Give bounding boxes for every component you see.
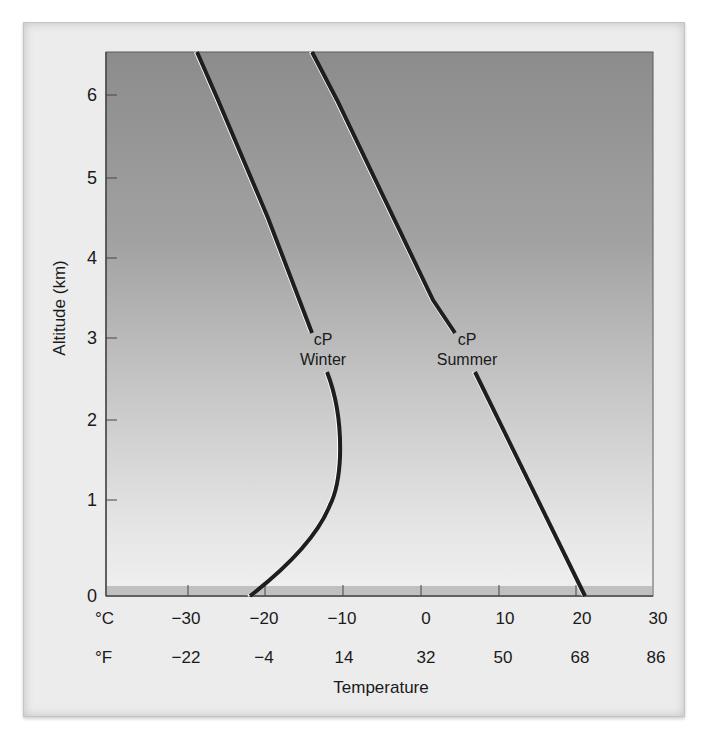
y-tick-label: 1 xyxy=(87,491,97,509)
label-cp-summer-line2: Summer xyxy=(437,350,497,370)
x-tick-fahrenheit: 32 xyxy=(417,649,436,666)
ground-band xyxy=(107,586,652,596)
plot-area xyxy=(106,52,653,596)
x-tick-fahrenheit: 14 xyxy=(335,649,354,666)
x-tick-celsius: 30 xyxy=(649,610,668,627)
label-cp-winter-line1: cP xyxy=(300,330,346,350)
chart-plot xyxy=(0,0,706,748)
x-tick-celsius: −10 xyxy=(328,610,357,627)
label-cp-summer: cP Summer xyxy=(437,330,497,370)
y-tick-label: 4 xyxy=(87,249,97,267)
y-tick-label: 6 xyxy=(87,86,97,104)
y-tick-label: 0 xyxy=(87,587,97,605)
x-tick-fahrenheit: −22 xyxy=(172,649,201,666)
x-axis-title: Temperature xyxy=(333,678,428,698)
x-tick-fahrenheit: −4 xyxy=(254,649,273,666)
y-tick-label: 2 xyxy=(87,411,97,429)
x-tick-celsius: −30 xyxy=(172,610,201,627)
x-tick-celsius: 20 xyxy=(573,610,592,627)
y-axis-title: Altitude (km) xyxy=(50,260,70,355)
x-tick-fahrenheit: 50 xyxy=(494,649,513,666)
y-tick-label: 3 xyxy=(87,329,97,347)
x-tick-celsius: 0 xyxy=(421,610,430,627)
y-tick-label: 5 xyxy=(87,169,97,187)
label-cp-winter-line2: Winter xyxy=(300,350,346,370)
x-tick-celsius: 10 xyxy=(496,610,515,627)
celsius-unit-label: °C xyxy=(95,610,114,627)
label-cp-summer-line1: cP xyxy=(437,330,497,350)
x-tick-fahrenheit: 86 xyxy=(647,649,666,666)
x-tick-fahrenheit: 68 xyxy=(571,649,590,666)
fahrenheit-unit-label: °F xyxy=(95,649,112,666)
label-cp-winter: cP Winter xyxy=(300,330,346,370)
x-tick-celsius: −20 xyxy=(250,610,279,627)
